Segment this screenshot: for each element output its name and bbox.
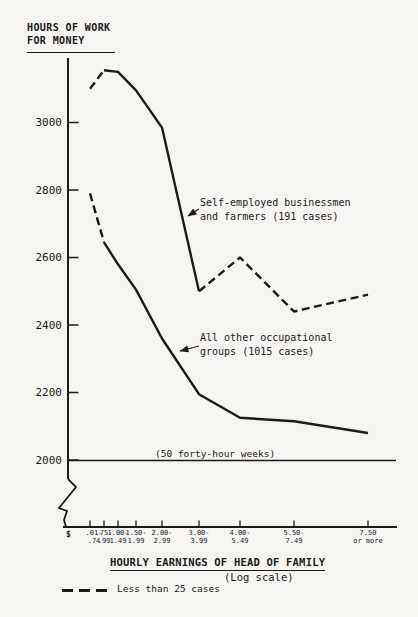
x-tick-label-5: 3.00-3.99 (188, 530, 209, 545)
annotation-all-other: All other occupational groups (1015 case… (200, 331, 332, 358)
y-tick-label-3000: 3000 (26, 117, 62, 128)
annotation-all-other-line1: All other occupational (200, 331, 332, 345)
annotation-self-employed-line2: and farmers (191 cases) (200, 210, 351, 224)
series-0-dashed-path (90, 70, 104, 89)
chart-canvas (0, 0, 418, 617)
annotation-all-other-line2: groups (1015 cases) (200, 345, 332, 359)
y-tick-label-2000: 2000 (26, 455, 62, 466)
x-tick-label-7: 5.50-7.49 (283, 530, 304, 545)
x-tick-label-8: 7.50or more (353, 530, 383, 545)
y-tick-label-2600: 2600 (26, 252, 62, 263)
legend-label: Less than 25 cases (117, 583, 220, 594)
x-tick-label-3: 1.50-1.99 (125, 530, 146, 545)
series-0-solid-path (104, 70, 199, 291)
annotation-arrow-self-employed (188, 209, 199, 216)
x-tick-label-6: 4.00-5.49 (229, 530, 250, 545)
scanned-chart-figure: HOURS OF WORK FOR MONEY $ Self-employed … (0, 0, 418, 617)
y-tick-label-2400: 2400 (26, 320, 62, 331)
x-axis-subtitle: (Log scale) (224, 571, 294, 583)
currency-symbol: $ (66, 530, 71, 539)
y-axis-title-line2: FOR MONEY (27, 34, 115, 47)
y-tick-label-2800: 2800 (26, 185, 62, 196)
annotation-self-employed-line1: Self-employed businessmen (200, 196, 351, 210)
series-0-dashed-path (199, 258, 368, 312)
y-axis-title-line1: HOURS OF WORK (27, 21, 115, 34)
legend: Less than 25 cases (62, 583, 282, 601)
legend-dashed-line-swatch (62, 589, 108, 592)
y-tick-label-2200: 2200 (26, 387, 62, 398)
y-axis-break (59, 479, 76, 527)
y-axis-title: HOURS OF WORK FOR MONEY (27, 21, 115, 53)
annotation-arrow-all-other (180, 346, 199, 351)
x-tick-label-4: 2.00-2.99 (151, 530, 172, 545)
annotation-self-employed: Self-employed businessmen and farmers (1… (200, 196, 351, 223)
series-1-dashed-path (90, 193, 104, 242)
x-axis-title: HOURLY EARNINGS OF HEAD OF FAMILY (110, 556, 325, 571)
reference-line-label: (50 forty-hour weeks) (155, 448, 275, 459)
